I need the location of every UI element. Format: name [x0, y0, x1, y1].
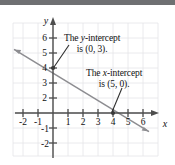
y-axis-label: y — [43, 15, 49, 26]
x-tick-label: 5 — [126, 117, 131, 127]
y-tick-label: 5 — [42, 48, 47, 58]
y-tick-label: -2 — [41, 139, 49, 149]
callout-text-pre: The — [86, 68, 103, 78]
x-tick-label: 1 — [66, 117, 71, 127]
x-intercept-point — [111, 111, 115, 115]
y-tick-label: 3 — [42, 78, 47, 88]
y-tick-label: 2 — [42, 93, 47, 103]
x-axis — [15, 109, 159, 117]
x-tick-label: 4 — [111, 117, 116, 127]
y-intercept-callout-line2: is (0, 3). — [64, 44, 120, 55]
x-intercept-callout-line2: is (5, 0). — [86, 79, 142, 90]
callout-text-pre: The — [64, 33, 81, 43]
y-tick-label: 6 — [42, 33, 47, 43]
y-tick-label: 4 — [42, 63, 47, 73]
y-tick-label: -1 — [41, 124, 49, 134]
x-intercept-callout-line1: The x-intercept — [86, 68, 142, 79]
x-axis-label: x — [162, 118, 168, 129]
y-axis — [49, 17, 57, 158]
y-intercept-callout-line1: The y-intercept — [64, 33, 120, 44]
x-tick-label: 2 — [81, 117, 86, 127]
graph-figure: -2 -1 1 2 3 4 5 6 6 5 4 3 2 1 -1 -2 1 x … — [0, 0, 175, 165]
callout-text-post: -intercept — [85, 33, 120, 43]
x-tick-label: 3 — [96, 117, 101, 127]
x-intercept-callout: The x-intercept is (5, 0). — [86, 68, 142, 90]
y-tick-labels: 6 5 4 3 2 1 -1 -2 — [41, 33, 49, 149]
x-tick-label: -2 — [19, 117, 27, 127]
y-intercept-callout: The y-intercept is (0, 3). — [64, 33, 120, 55]
x-tick-labels: -2 -1 1 2 3 4 5 6 — [19, 117, 146, 127]
x-intercept-leader — [112, 88, 122, 112]
callout-text-post: -intercept — [107, 68, 142, 78]
x-tick-label: 6 — [141, 117, 146, 127]
